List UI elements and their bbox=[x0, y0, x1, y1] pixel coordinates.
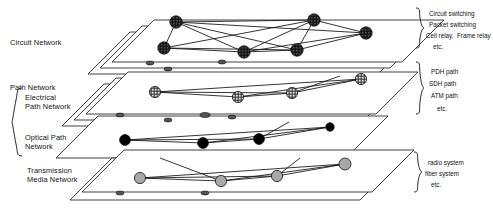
layer-label-transmission: Transmission Media Network bbox=[27, 166, 78, 184]
path-tech-item: ATM path bbox=[431, 92, 458, 101]
node-circuit bbox=[158, 42, 170, 54]
node-transmission bbox=[339, 158, 351, 170]
circuit-tech-item: Cell relay, Frame relay bbox=[426, 32, 491, 41]
media-tech-brace bbox=[414, 152, 422, 192]
path-group-brace bbox=[12, 88, 22, 156]
node-optical bbox=[326, 123, 334, 131]
media-tech-item: etc. bbox=[431, 181, 441, 190]
layer-label-circuit: Circuit Network bbox=[10, 38, 62, 47]
path-tech-item: PDH path bbox=[431, 68, 458, 77]
node-circuit bbox=[360, 27, 372, 39]
layer-label-path-group: Path Network bbox=[10, 83, 56, 92]
node-optical bbox=[198, 138, 209, 149]
layer-label-electrical: Electrical Path Network bbox=[25, 93, 71, 111]
node-transmission bbox=[271, 170, 282, 181]
node-transmission bbox=[134, 172, 145, 183]
node-electrical bbox=[149, 86, 160, 97]
node-circuit bbox=[170, 16, 182, 28]
node-electrical bbox=[355, 73, 366, 84]
media-tech-item: fiber system bbox=[425, 170, 459, 179]
path-tech-item: etc. bbox=[437, 105, 447, 114]
node-electrical bbox=[232, 91, 243, 102]
circuit-tech-item: Circuit switching bbox=[429, 10, 475, 19]
path-tech-item: SDH path bbox=[429, 80, 456, 89]
path-tech-brace bbox=[416, 62, 424, 114]
node-circuit bbox=[291, 44, 303, 56]
circuit-tech-item: Packet switching bbox=[429, 21, 476, 30]
node-optical bbox=[254, 134, 265, 145]
node-transmission bbox=[215, 175, 226, 186]
node-circuit bbox=[308, 14, 320, 26]
media-tech-item: radio system bbox=[428, 159, 464, 168]
node-electrical bbox=[286, 87, 297, 98]
circuit-tech-item: etc. bbox=[433, 43, 443, 52]
plane-stack bbox=[56, 20, 444, 200]
node-circuit bbox=[238, 46, 250, 58]
node-optical bbox=[120, 135, 131, 146]
layer-label-optical: Optical Path Network bbox=[25, 133, 66, 151]
